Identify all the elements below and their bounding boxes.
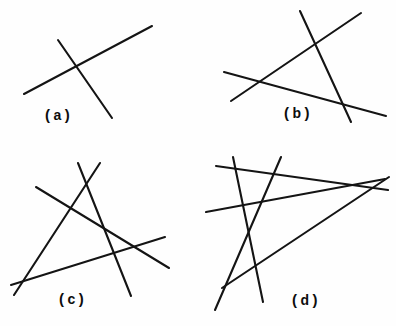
caption-a-close-paren: ) [64,106,72,123]
caption-b-open-paren: ( [283,104,291,121]
panel-caption-a: (a) [44,106,71,123]
caption-d-letter: d [299,292,312,308]
caption-a-letter: a [52,107,64,123]
caption-d-open-paren: ( [291,291,299,308]
caption-c-letter: c [66,291,78,307]
panel-caption-c: (c) [58,290,85,307]
caption-a-open-paren: ( [44,106,52,123]
caption-c-close-paren: ) [78,290,86,307]
figure-container: (a) (b) (c) (d) [0,0,396,326]
caption-b-letter: b [291,105,304,121]
figure-background [0,0,396,326]
line-arrangement-svg [0,0,396,326]
panel-caption-b: (b) [283,104,311,121]
caption-c-open-paren: ( [58,290,66,307]
caption-d-close-paren: ) [312,291,320,308]
caption-b-close-paren: ) [304,104,312,121]
panel-caption-d: (d) [291,291,319,308]
